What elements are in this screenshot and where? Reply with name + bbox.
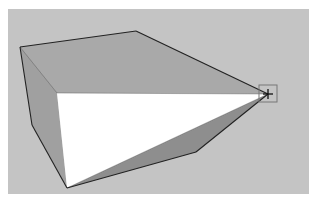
top-face[interactable]	[20, 31, 268, 94]
model-canvas[interactable]	[0, 0, 315, 201]
front-face[interactable]	[57, 93, 268, 188]
